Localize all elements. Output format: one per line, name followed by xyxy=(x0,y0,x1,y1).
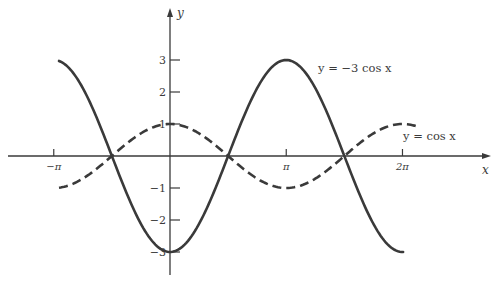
y-tick-label: 3 xyxy=(159,54,166,67)
labels: −ππ2π321−1−2−3xyy = −3 cos xy = cos x xyxy=(46,6,489,259)
cosine-chart: −ππ2π321−1−2−3xyy = −3 cos xy = cos x xyxy=(0,0,499,282)
x-axis-label: x xyxy=(482,163,489,177)
x-tick-label: 2π xyxy=(395,161,409,172)
y-tick-label: 1 xyxy=(159,118,166,131)
x-axis-arrow-icon xyxy=(482,153,491,159)
y-axis-arrow-icon xyxy=(167,8,173,17)
y-tick-label: −1 xyxy=(150,182,166,195)
x-tick-label: −π xyxy=(46,161,61,172)
annotation-neg3cos: y = −3 cos x xyxy=(317,61,392,75)
y-tick-label: −2 xyxy=(150,214,166,227)
y-tick-label: −3 xyxy=(150,246,166,259)
y-tick-label: 2 xyxy=(159,86,166,99)
y-axis-label: y xyxy=(176,6,184,20)
annotation-cos: y = cos x xyxy=(402,129,456,143)
x-tick-label: π xyxy=(282,161,290,172)
